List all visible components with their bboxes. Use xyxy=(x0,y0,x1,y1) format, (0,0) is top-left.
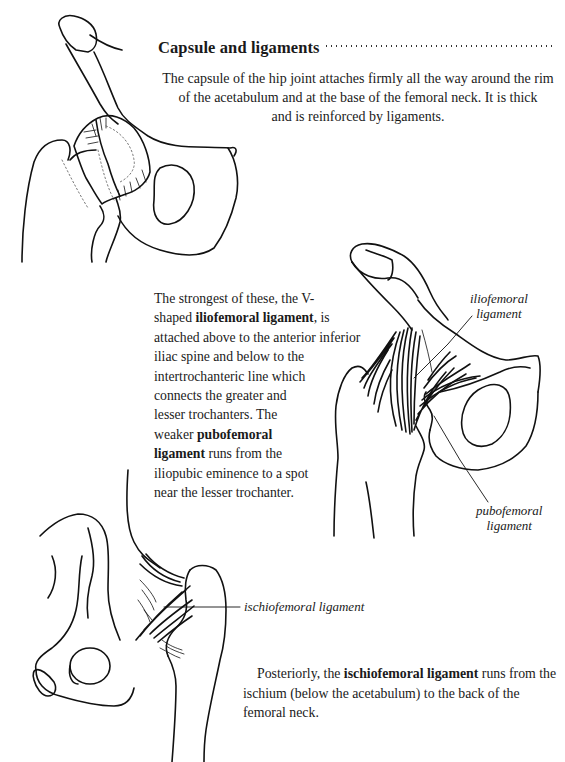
term-ischiofemoral-ligament: ischiofemoral ligament xyxy=(344,666,479,681)
para-line: weaker pubofemoral xyxy=(154,425,359,444)
term-pubofemoral: pubofemoral xyxy=(197,427,272,442)
intro-line: of the acetabulum and at the base of the… xyxy=(158,88,558,107)
term-iliofemoral-ligament: iliofemoral ligament xyxy=(195,310,313,325)
intro-line: and is reinforced by ligaments. xyxy=(158,107,558,126)
para-line: femoral neck. xyxy=(243,703,563,723)
intro-line: The capsule of the hip joint attaches fi… xyxy=(158,69,558,88)
para-line: iliac spine and below to the xyxy=(154,347,359,366)
para-line: The strongest of these, the V- xyxy=(154,289,359,308)
section-title: Capsule and ligaments xyxy=(158,38,320,58)
intro-paragraph: The capsule of the hip joint attaches fi… xyxy=(158,69,558,126)
title-leader-dots xyxy=(324,44,552,48)
para-line: lesser trochanters. The xyxy=(154,405,359,424)
para-line: ligament runs from the xyxy=(154,444,359,463)
label-iliofemoral-ligament: iliofemoral ligament xyxy=(470,291,528,321)
ischiofemoral-paragraph: Posteriorly, the ischiofemoral ligament … xyxy=(243,664,563,723)
label-ischiofemoral-ligament: ischiofemoral ligament xyxy=(244,599,364,614)
para-line: shaped iliofemoral ligament, is xyxy=(154,308,359,327)
label-pubofemoral-ligament: pubofemoral ligament xyxy=(476,503,542,533)
para-line: connects the greater and xyxy=(154,386,359,405)
para-line: ischium (below the acetabulum) to the ba… xyxy=(243,684,563,704)
para-line: attached above to the anterior inferior xyxy=(154,328,359,347)
para-line: Posteriorly, the ischiofemoral ligament … xyxy=(243,664,563,684)
term-ligament: ligament xyxy=(154,446,205,461)
para-line: intertrochanteric line which xyxy=(154,367,359,386)
iliofemoral-pubofemoral-illustration xyxy=(330,220,565,540)
ischiofemoral-illustration xyxy=(0,470,260,762)
